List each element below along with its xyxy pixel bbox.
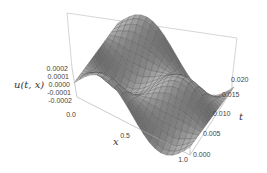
t-tick: 0.020 bbox=[231, 76, 249, 83]
x-tick: 1.0 bbox=[178, 156, 188, 163]
t-tick: 0.010 bbox=[213, 110, 231, 117]
t-axis-label: t bbox=[239, 111, 244, 122]
z-tick: -0.0002 bbox=[48, 97, 72, 104]
t-tick: 0.000 bbox=[193, 151, 211, 158]
z-tick: 0.0000 bbox=[49, 81, 71, 88]
z-tick: 0.0002 bbox=[47, 65, 69, 72]
t-tick: 0.015 bbox=[222, 91, 240, 98]
z-axis-label: u(t, x) bbox=[14, 79, 44, 90]
z-axis-ticks: 0.0002 0.0001 0.0000 -0.0001 -0.0002 bbox=[47, 65, 73, 104]
surface-plot-3d: 0.0002 0.0001 0.0000 -0.0001 -0.0002 u(t… bbox=[0, 0, 267, 173]
z-tick: -0.0001 bbox=[47, 89, 71, 96]
x-tick: 0.0 bbox=[66, 111, 76, 118]
z-tick: 0.0001 bbox=[48, 73, 70, 80]
x-tick: 0.5 bbox=[120, 132, 130, 139]
x-axis-label: x bbox=[113, 136, 119, 147]
t-tick: 0.005 bbox=[203, 130, 221, 137]
